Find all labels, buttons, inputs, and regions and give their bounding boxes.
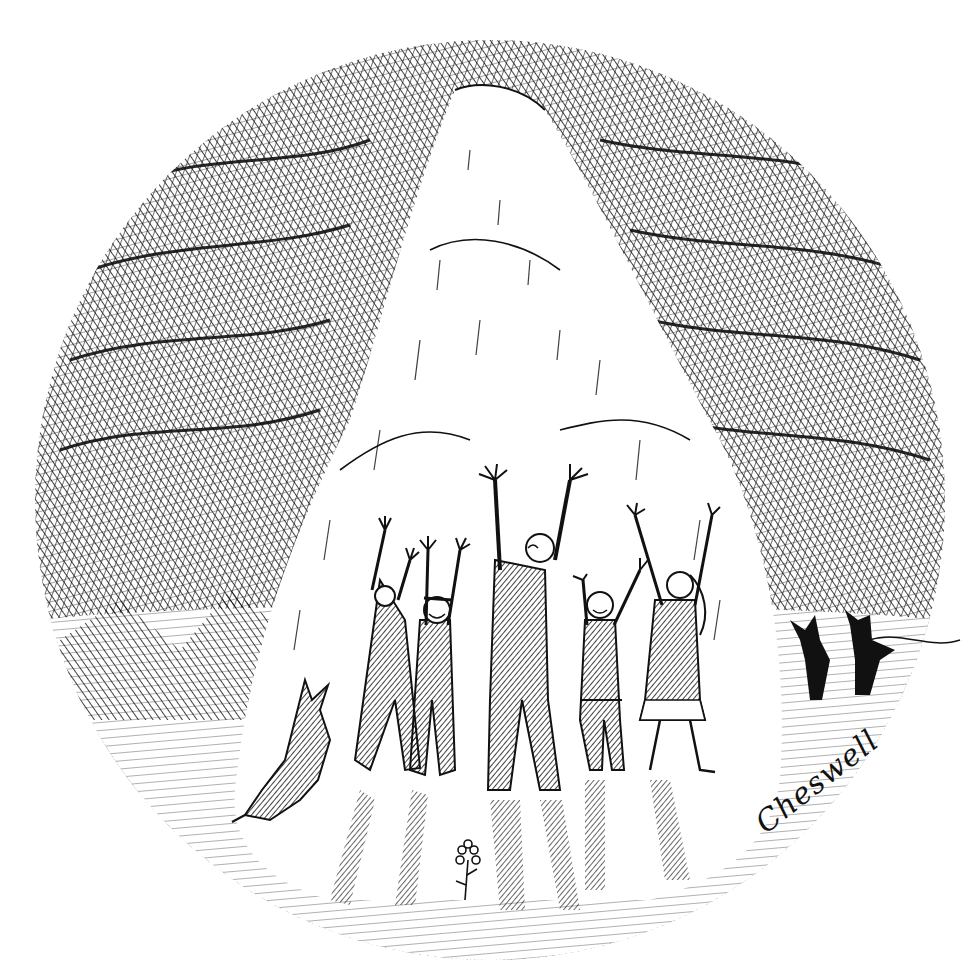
ink-illustration <box>0 0 977 980</box>
